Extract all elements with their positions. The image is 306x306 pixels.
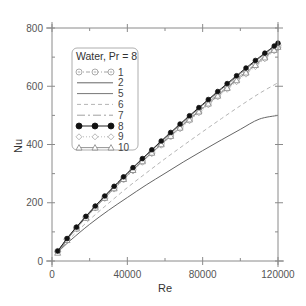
- x-tick-label: 0: [49, 269, 55, 280]
- marker-filled-circle: [140, 156, 145, 161]
- marker-filled-circle: [55, 249, 60, 254]
- marker-filled-circle: [102, 194, 107, 199]
- chart: 040000800001200000200400600800 Re Nu Wat…: [0, 0, 306, 306]
- legend-label: 7: [118, 110, 124, 121]
- marker-filled-circle: [225, 81, 230, 86]
- x-tick-label: 120000: [261, 269, 295, 280]
- marker-filled-circle: [206, 97, 211, 102]
- y-tick-label: 0: [37, 256, 43, 267]
- marker-filled-circle: [197, 105, 202, 110]
- legend-label: 6: [118, 99, 124, 110]
- marker-filled-circle: [187, 113, 192, 118]
- y-tick-label: 800: [26, 23, 43, 34]
- marker-filled-circle: [93, 204, 98, 209]
- legend-label: 2: [118, 77, 124, 88]
- marker-filled-circle: [168, 130, 173, 135]
- legend-label: 8: [118, 121, 124, 132]
- marker-filled-circle: [74, 225, 79, 230]
- marker-filled-circle: [244, 66, 249, 71]
- legend-box: [72, 48, 138, 150]
- x-axis-label: Re: [158, 282, 172, 294]
- marker-filled-circle: [234, 73, 239, 78]
- legend: Water, Pr = 8 125678910: [72, 48, 138, 153]
- y-tick-label: 400: [26, 139, 43, 150]
- marker-filled-circle: [84, 214, 89, 219]
- legend-label: 9: [118, 131, 124, 142]
- marker-filled-circle: [253, 58, 258, 63]
- legend-label: 5: [118, 88, 124, 99]
- y-tick-label: 600: [26, 81, 43, 92]
- marker-filled-circle: [131, 165, 136, 170]
- marker-filled-circle: [150, 147, 155, 152]
- marker-filled-circle: [108, 123, 114, 129]
- marker-filled-circle: [121, 175, 126, 180]
- marker-filled-circle: [215, 89, 220, 94]
- x-tick-label: 40000: [113, 269, 141, 280]
- marker-filled-circle: [112, 184, 117, 189]
- legend-label: 10: [118, 142, 130, 153]
- y-tick-label: 200: [26, 197, 43, 208]
- legend-title: Water, Pr = 8: [76, 50, 137, 62]
- legend-label: 1: [118, 67, 124, 78]
- marker-filled-circle: [159, 139, 164, 144]
- marker-filled-circle: [92, 123, 98, 129]
- marker-filled-circle: [178, 122, 183, 127]
- marker-filled-circle: [65, 236, 70, 241]
- x-tick-label: 80000: [189, 269, 217, 280]
- marker-filled-circle: [263, 51, 268, 56]
- y-axis-label: Nu: [12, 139, 24, 153]
- marker-filled-circle: [76, 123, 82, 129]
